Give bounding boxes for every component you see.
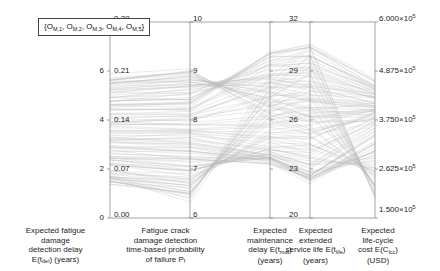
axis4-tick-2: 26: [289, 116, 298, 124]
axis5-tick-1-exponent: ×105: [399, 164, 416, 173]
axis1-tick-3: 6: [84, 67, 104, 75]
axis3-tick-4: 10: [193, 15, 202, 23]
legend[interactable]: {OM,1, OM,2, OM,3, OM,4, OM,5}: [38, 18, 150, 36]
axis3-tick-1: 7: [193, 165, 197, 173]
axis1-caption-line2: damage: [3, 236, 108, 246]
axis5-tick-2-exponent: ×105: [399, 115, 416, 124]
axis4-tick-4: 32: [289, 15, 298, 23]
axis2-caption-line1: Fatigue crack: [113, 226, 218, 236]
axis4-tick-3: 29: [289, 67, 298, 75]
axis5-tick-4-mantissa: 6.000: [379, 14, 399, 23]
axis5-tick-1-mantissa: 2.625: [379, 164, 399, 173]
axis5-tick-4: 6.000×105: [379, 15, 416, 23]
axis4-tick-1: 23: [289, 165, 298, 173]
axis4-tick-0: 20: [289, 211, 298, 219]
axis2-tick-1: 0.07: [114, 165, 130, 173]
axis5-tick-1: 2.625×105: [379, 165, 416, 173]
axis5-tick-3: 4.875×105: [379, 67, 416, 75]
data-lines: [110, 44, 375, 202]
axis2-tick-0: 0.00: [114, 211, 130, 219]
axis1-caption-line4: E(tdel) (years): [3, 255, 108, 266]
axis5-tick-2-mantissa: 3.750: [379, 115, 399, 124]
axis5-caption: Expected life-cycle cost E(Clcc) (USD): [338, 226, 418, 265]
axis5-tick-0-exponent: ×105: [399, 205, 416, 214]
axis5-tick-4-exponent: ×105: [399, 14, 416, 23]
axis5-tick-3-mantissa: 4.875: [379, 66, 399, 75]
axis3-tick-0: 6: [193, 211, 197, 219]
axis5-tick-3-exponent: ×105: [399, 66, 416, 75]
axis5-caption-line1: Expected: [338, 226, 418, 236]
axis5-tick-2: 3.750×105: [379, 116, 416, 124]
axis5-tick-0: 1.500×105: [379, 206, 416, 214]
axis5-caption-line3: cost E(Clcc): [338, 245, 418, 256]
axis1-tick-1: 2: [84, 165, 104, 173]
axis1-tick-0: 0: [84, 214, 104, 222]
legend-entry-objectives: {OM,1, OM,2, OM,3, OM,4, OM,5}: [44, 22, 144, 31]
axis5-tick-0-mantissa: 1.500: [379, 205, 399, 214]
axis2-caption-line3: time-based probability: [113, 245, 218, 255]
axis2-tick-3: 0.21: [114, 67, 130, 75]
axis1-tick-2: 4: [84, 116, 104, 124]
axis2-caption: Fatigue crack damage detection time-base…: [113, 226, 218, 265]
axis2-tick-2: 0.14: [114, 116, 130, 124]
axis5-caption-line2: life-cycle: [338, 236, 418, 246]
axis2-caption-line4: of failure Pf: [113, 255, 218, 266]
axis1-caption-line3: detection delay: [3, 245, 108, 255]
axis3-tick-3: 9: [193, 67, 197, 75]
axis3-tick-2: 8: [193, 116, 197, 124]
axis5-caption-line4: (USD): [338, 256, 418, 266]
axis1-caption: Expected fatigue damage detection delay …: [3, 226, 108, 265]
axis2-caption-line2: damage detection: [113, 236, 218, 246]
parallel-coordinates-figure: 8 6 4 2 0 0.28 0.21 0.14 0.07 0.00 10 9 …: [0, 0, 440, 271]
axis1-caption-line1: Expected fatigue: [3, 226, 108, 236]
